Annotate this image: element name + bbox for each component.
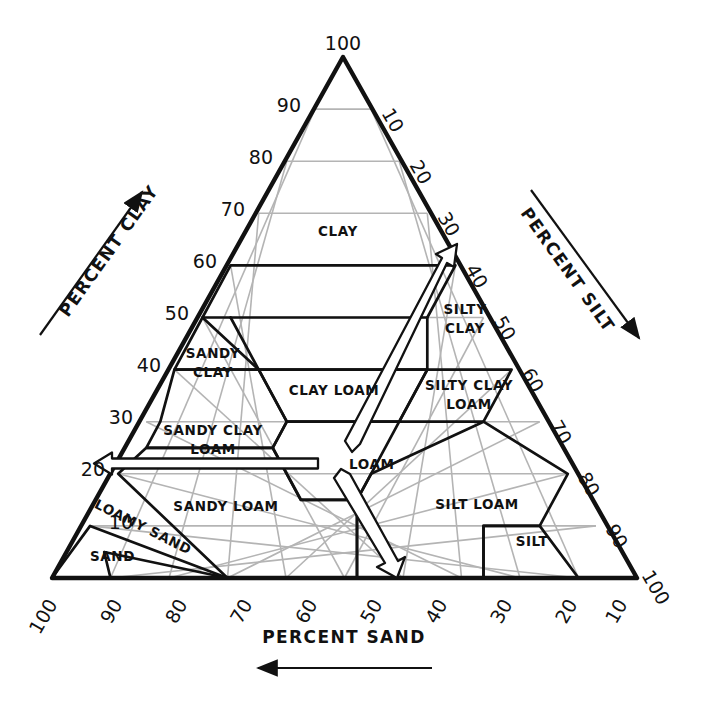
class-label-silty-clay-line1: SILTY xyxy=(443,301,486,317)
left-tick-40: 40 xyxy=(137,354,161,376)
class-label-sandy-clay-line2: CLAY xyxy=(193,364,233,380)
class-label-sandy-clay-loam-line1: SANDY CLAY xyxy=(163,422,263,438)
class-label-silt-loam: SILT LOAM xyxy=(435,496,519,512)
left-tick-20: 20 xyxy=(81,458,105,480)
left-tick-90: 90 xyxy=(277,94,301,116)
class-label-sand: SAND xyxy=(90,548,135,564)
class-label-silty-clay-loam-line1: SILTY CLAY xyxy=(425,377,513,393)
class-label-loam: LOAM xyxy=(349,456,395,472)
bottom-tick-70: 70 xyxy=(225,595,256,627)
class-label-sandy-clay-line1: SANDY xyxy=(186,345,240,361)
left-tick-80: 80 xyxy=(249,146,273,168)
bottom-tick-10: 10 xyxy=(600,595,631,627)
right-tick-30: 30 xyxy=(434,208,465,240)
bottom-tick-40: 40 xyxy=(420,595,451,627)
left-tick-70: 70 xyxy=(221,198,245,220)
ternary-gridlines xyxy=(90,109,596,578)
class-label-silty-clay-line2: CLAY xyxy=(445,320,485,336)
right-tick-50: 50 xyxy=(490,312,521,344)
right-tick-40: 40 xyxy=(462,260,493,292)
ternary-diagram-svg: CLAY SILTY CLAY SANDY CLAY CLAY LOAM SIL… xyxy=(0,0,712,714)
class-label-silt: SILT xyxy=(516,533,549,549)
apex-tick-100: 100 xyxy=(325,32,361,54)
bottom-tick-30: 30 xyxy=(485,595,516,627)
right-tick-10: 10 xyxy=(378,104,409,136)
bottom-tick-60: 60 xyxy=(290,595,321,627)
class-label-silty-clay-loam-line2: LOAM xyxy=(446,396,492,412)
left-tick-10: 10 xyxy=(109,511,133,533)
right-tick-100: 100 xyxy=(638,566,675,608)
left-tick-50: 50 xyxy=(165,302,189,324)
class-label-sandy-loam: SANDY LOAM xyxy=(173,498,278,514)
sand-axis-name: PERCENT SAND xyxy=(262,627,426,647)
bottom-tick-50: 50 xyxy=(355,595,386,627)
right-tick-60: 60 xyxy=(518,364,549,396)
class-label-clay-loam: CLAY LOAM xyxy=(289,382,380,398)
silt-axis-name: PERCENT SILT xyxy=(517,204,619,336)
right-tick-20: 20 xyxy=(406,156,437,188)
bottom-tick-90: 90 xyxy=(95,595,126,627)
class-label-clay: CLAY xyxy=(318,223,358,239)
class-label-sandy-clay-loam-line2: LOAM xyxy=(190,441,236,457)
left-tick-60: 60 xyxy=(193,250,217,272)
soil-texture-triangle-figure: CLAY SILTY CLAY SANDY CLAY CLAY LOAM SIL… xyxy=(0,0,712,714)
bottom-tick-80: 80 xyxy=(160,595,191,627)
clay-axis-name: PERCENT CLAY xyxy=(55,181,162,320)
bottom-tick-20: 20 xyxy=(550,595,581,627)
bottom-tick-100: 100 xyxy=(24,595,61,637)
left-tick-30: 30 xyxy=(109,406,133,428)
silt-axis-arrow xyxy=(531,190,639,338)
